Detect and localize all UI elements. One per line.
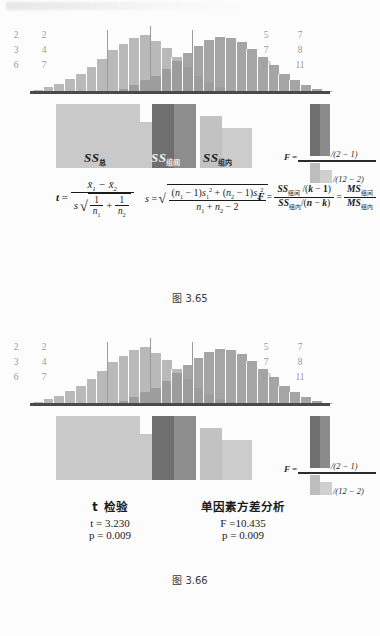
- ss-subscript: 组内: [218, 159, 232, 167]
- f-numerator-bar-mid: [320, 416, 330, 468]
- F-ss-fraction: SS组间 /(k − 1) SS组内/(n − k): [274, 184, 334, 211]
- F-ms-numerator: MS组间: [344, 184, 376, 198]
- ss-total-block-step: [56, 122, 160, 168]
- histogram-bar: [236, 354, 247, 404]
- number-cell: 6: [8, 370, 24, 385]
- histogram-bar: [257, 57, 268, 92]
- scan-bleed-artifact: [6, 2, 256, 10]
- scanned-page: 2 3 6 2 4 7 5 7 10 7 8 11 SS总: [0, 0, 380, 636]
- f-ratio-diagram: F = /(2 − 1) /(12 − 2): [284, 416, 380, 496]
- number-cell: 3: [8, 43, 24, 58]
- histogram-bar: [268, 65, 279, 92]
- mean-line-group-1: [107, 342, 108, 404]
- t-test-result: t 检验 t = 3.230 p = 0.009: [50, 498, 170, 541]
- s-radical: (n1 − 1)s12 + (n2 − 1)s22 n1 + n2 − 2: [160, 184, 269, 214]
- F-ss-denominator: SS组内/(n − k): [274, 198, 334, 211]
- histogram-bar: [171, 61, 182, 92]
- f-denominator-bar-a: [310, 475, 320, 495]
- histogram-bar: [203, 352, 214, 404]
- F-ss-numerator: SS组间 /(k − 1): [274, 184, 334, 198]
- figure-3-65: 2 3 6 2 4 7 5 7 10 7 8 11 SS总: [0, 18, 380, 318]
- t-radical: 1n1 + 1n2: [81, 193, 131, 218]
- f-numerator-df: /(2 − 1): [331, 461, 358, 471]
- number-cell: 2: [8, 28, 24, 43]
- s-denominator: n1 + n2 − 2: [169, 201, 267, 214]
- t-symbol: t: [56, 191, 59, 203]
- histogram-bar: [214, 37, 225, 92]
- ss-symbol: SS: [203, 150, 218, 165]
- F-ms-fraction: MS组间 MS组内: [344, 184, 376, 211]
- left-number-column-1: 2 3 6: [8, 28, 24, 73]
- ss-within-block-step: [222, 440, 252, 480]
- f-statistic: F =10.435: [168, 517, 318, 529]
- ss-total-label: SS总: [84, 148, 106, 166]
- ss-symbol: SS: [84, 150, 99, 165]
- figure-caption-3-65: 图 3.65: [0, 290, 380, 305]
- histogram-bar: [75, 386, 86, 404]
- f-numerator-bar-mid: [320, 104, 330, 156]
- f-ratio-diagram: F = /(2 − 1) /(12 − 2): [284, 104, 380, 184]
- histogram-bar: [86, 379, 97, 404]
- histogram-bar: [246, 361, 257, 404]
- grand-mean-line: [150, 26, 151, 92]
- number-cell: 6: [8, 58, 24, 73]
- f-equals-label: F =: [284, 464, 297, 474]
- F-symbol: F: [258, 192, 264, 202]
- histogram-bar: [225, 350, 236, 404]
- pooled-sd-formula: s = (n1 − 1)s12 + (n2 − 1)s22 n1 + n2 − …: [145, 184, 268, 214]
- histogram-bar: [128, 350, 139, 404]
- left-number-column-1: 2 3 6: [8, 340, 24, 385]
- histogram-bar: [268, 377, 279, 404]
- histogram-bar: [96, 59, 107, 92]
- anova-p-value: p = 0.009: [168, 529, 318, 541]
- grand-mean-line: [150, 338, 151, 404]
- histogram-bar: [193, 358, 204, 404]
- mean-line-group-2: [192, 342, 193, 404]
- ss-subscript: 组间: [166, 159, 180, 167]
- ss-within-block: [200, 428, 222, 480]
- f-numerator-bar-dark: [310, 416, 320, 468]
- t-p-value: p = 0.009: [50, 529, 170, 541]
- histogram-bar: [278, 386, 289, 404]
- histogram-bar: [246, 49, 257, 92]
- overlapping-histogram: [32, 344, 332, 404]
- histogram-bar: [118, 356, 129, 404]
- f-equals-label: F =: [284, 152, 297, 162]
- histogram-axis: [30, 91, 330, 94]
- ss-within-label: SS组内: [203, 148, 232, 166]
- number-cell: 2: [8, 340, 24, 355]
- anova-title: 单因素方差分析: [168, 498, 318, 514]
- ss-between-block-mid: [174, 416, 196, 480]
- mean-line-group-1: [107, 30, 108, 92]
- t-fraction: x̄1 − x̄2 s 1n1 + 1n2: [71, 178, 134, 218]
- ss-subscript: 总: [99, 159, 106, 167]
- t-denominator: s 1n1 + 1n2: [71, 193, 134, 218]
- f-denominator-bar-b: [320, 170, 332, 183]
- F-ms-denominator: MS组内: [344, 198, 376, 211]
- histogram-bar: [75, 74, 86, 92]
- histogram-bar: [278, 74, 289, 92]
- mean-line-group-2: [192, 30, 193, 92]
- s-symbol: s: [145, 193, 149, 204]
- histogram-bar: [96, 371, 107, 404]
- f-denominator-bar-b: [320, 482, 332, 495]
- f-fraction-rule: [298, 472, 376, 474]
- ss-between-block-dark: [152, 416, 174, 480]
- ss-between-label: SS组间: [151, 148, 180, 166]
- f-denominator-df: /(12 − 2): [333, 486, 364, 496]
- f-anova-formula: F = SS组间 /(k − 1) SS组内/(n − k) = MS组间 MS…: [258, 184, 376, 211]
- histogram-bar: [161, 381, 172, 404]
- histogram-bar: [236, 42, 247, 92]
- histogram-bar: [193, 46, 204, 92]
- histogram-bar: [107, 362, 118, 404]
- histogram-bar: [203, 40, 214, 92]
- histogram-bar: [107, 50, 118, 92]
- histogram-bar: [150, 388, 161, 404]
- overlapping-histogram: [32, 32, 332, 92]
- histogram-axis: [30, 403, 330, 406]
- histogram-bar: [225, 38, 236, 92]
- t-statistic: t = 3.230: [50, 517, 170, 529]
- histogram-bar: [86, 67, 97, 92]
- number-cell: 3: [8, 355, 24, 370]
- ss-total-block-step: [56, 434, 160, 480]
